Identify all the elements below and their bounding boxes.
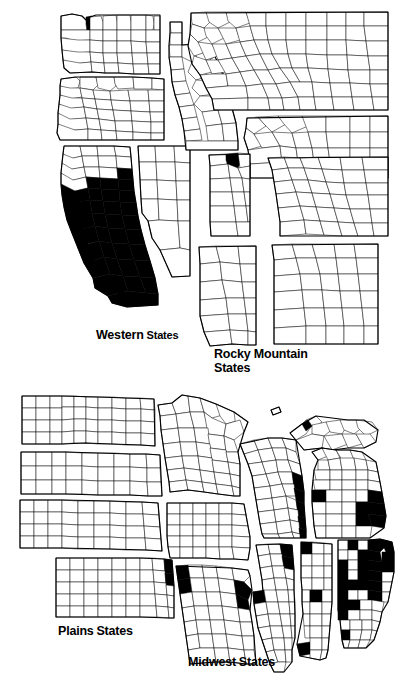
state-kansas xyxy=(56,558,174,618)
state-washington xyxy=(61,14,160,74)
county-filled-san-joaquin xyxy=(101,189,120,202)
caption-western-states-word: States xyxy=(147,329,179,341)
county-filled-napa xyxy=(86,177,101,189)
county-filled-stark-oh xyxy=(358,570,368,580)
panel-rocky-mountain-states xyxy=(169,12,388,346)
county-filled-auglaize-oh xyxy=(338,590,348,600)
panel-midwest-states xyxy=(158,395,394,672)
caption-plains-primary: Plains xyxy=(58,624,94,638)
state-nebraska xyxy=(20,500,162,551)
county-filled-marion-in xyxy=(310,590,322,602)
caption-plains-secondary: States xyxy=(96,624,132,638)
county-filled-clark-oh xyxy=(338,600,348,610)
state-south-dakota xyxy=(21,452,162,496)
state-new-mexico xyxy=(272,244,378,344)
state-iowa xyxy=(167,503,250,560)
county-filled-lake-oh xyxy=(382,552,394,562)
state-oregon xyxy=(57,77,164,140)
caption-midwest-states: Midwest States xyxy=(188,652,275,670)
county-filled-franklin-oh xyxy=(348,600,360,610)
state-missouri xyxy=(176,565,256,664)
state-colorado xyxy=(268,157,388,236)
county-filled-alameda xyxy=(90,200,105,214)
caption-midwest-secondary: States xyxy=(239,655,275,669)
state-minnesota xyxy=(158,395,248,496)
county-filled-solano xyxy=(100,178,119,190)
state-wisconsin xyxy=(240,438,306,538)
caption-rocky-secondary: States xyxy=(214,361,308,375)
county-filled-stanislaus xyxy=(119,190,136,203)
county-filled-lucas-oh xyxy=(348,540,358,550)
map-canvas xyxy=(0,0,409,686)
county-filled-tuscarawas-oh xyxy=(358,580,368,590)
county-filled-lake-in xyxy=(301,542,312,554)
county-filled-trumbull-oh xyxy=(382,562,394,572)
county-filled-sac-south xyxy=(118,179,134,191)
panel-plains-states xyxy=(20,396,174,618)
state-michigan-lower-peninsula xyxy=(312,448,386,538)
caption-rocky-mountain-states: Rocky Mountain States xyxy=(214,347,308,375)
caption-western-primary: Western xyxy=(96,328,144,342)
caption-midwest-primary: Midwest xyxy=(188,655,236,669)
county-filled-macomb-mi xyxy=(368,502,386,516)
regional-county-map-figure: Western States Rocky Mountain States Pla… xyxy=(0,0,409,686)
county-filled-allen-oh xyxy=(338,580,348,590)
state-arizona xyxy=(199,246,256,346)
county-filled-richland-oh xyxy=(348,580,358,590)
state-utah xyxy=(209,153,250,236)
county-filled-oakland-mi xyxy=(356,502,368,514)
county-filled-summit-oh xyxy=(358,560,368,570)
state-indiana xyxy=(297,542,332,660)
state-montana xyxy=(188,12,388,110)
caption-rocky-primary: Rocky Mountain xyxy=(214,347,308,361)
caption-plains-states: Plains States xyxy=(58,621,133,639)
state-ohio xyxy=(338,539,394,648)
county-filled-muskegon-mi xyxy=(312,490,326,502)
state-north-dakota xyxy=(22,396,155,446)
county-filled-merced xyxy=(103,201,122,215)
county-filled-fresno xyxy=(105,214,125,229)
county-filled-madera xyxy=(120,202,138,216)
county-filled-hancock-oh xyxy=(338,570,348,580)
county-filled-sandusky-oh xyxy=(338,560,348,570)
county-filled-sacramento xyxy=(117,168,133,180)
county-filled-medina-oh xyxy=(358,550,368,560)
county-filled-contra-costa xyxy=(88,188,103,201)
caption-western-states: Western States xyxy=(96,325,178,343)
